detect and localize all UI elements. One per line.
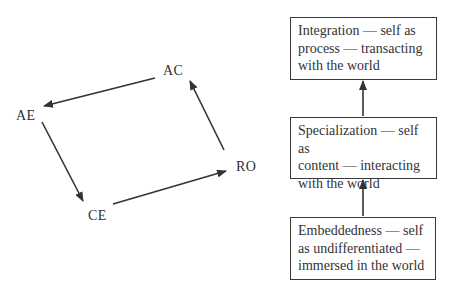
node-ce-label: CE (88, 209, 107, 223)
stage-text-line: as undifferentiated — (298, 240, 429, 258)
arrow-ae-to-ce (42, 122, 83, 201)
node-ac-label: AC (163, 64, 183, 78)
arrow-ro-to-ac (190, 81, 224, 150)
stage-text-line: process — transacting (298, 40, 430, 58)
stage-box-specialization: Specialization — self as content — inter… (290, 117, 437, 179)
arrow-ce-to-ro (113, 171, 226, 204)
stage-text-line: content — interacting (298, 157, 430, 175)
stage-text-line: Specialization — self as (298, 122, 430, 157)
stage-text-line: Integration — self as (298, 22, 430, 40)
stage-box-embeddedness: Embeddedness — self as undifferentiated … (290, 217, 436, 280)
stage-text-line: with the world (298, 175, 430, 193)
stage-text-line: Embeddedness — self (298, 222, 429, 240)
stage-text-line: with the world (298, 57, 430, 75)
arrow-ac-to-ae (44, 78, 155, 106)
node-ro-label: RO (236, 160, 256, 174)
stage-box-integration: Integration — self as process — transact… (290, 17, 437, 80)
node-ae-label: AE (16, 109, 35, 123)
stage-text-line: immersed in the world (298, 257, 429, 275)
